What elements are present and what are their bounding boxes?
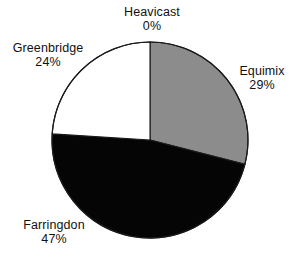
slice-label-farringdon-name: Farringdon bbox=[12, 218, 96, 232]
slice-label-heavicast-name: Heavicast bbox=[102, 5, 202, 19]
slice-label-greenbridge-name: Greenbridge bbox=[4, 41, 92, 55]
slice-label-farringdon: Farringdon 47% bbox=[12, 218, 96, 246]
slice-label-heavicast: Heavicast 0% bbox=[102, 5, 202, 33]
slice-label-equimix-value: 29% bbox=[233, 78, 291, 92]
slice-label-farringdon-value: 47% bbox=[12, 232, 96, 246]
slice-label-heavicast-value: 0% bbox=[102, 19, 202, 33]
pie-slices bbox=[52, 42, 248, 238]
slice-label-greenbridge-value: 24% bbox=[4, 55, 92, 69]
slice-label-greenbridge: Greenbridge 24% bbox=[4, 41, 92, 69]
slice-label-equimix-name: Equimix bbox=[233, 64, 291, 78]
slice-label-equimix: Equimix 29% bbox=[233, 64, 291, 92]
pie-chart: Heavicast 0% Equimix 29% Greenbridge 24%… bbox=[0, 0, 291, 257]
